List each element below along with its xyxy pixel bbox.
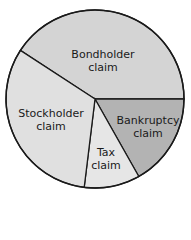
label-bankruptcy: Bankruptcy claim — [113, 114, 183, 140]
label-bankruptcy-line2: claim — [113, 127, 183, 140]
label-stockholder-line2: claim — [18, 120, 84, 133]
label-tax: Tax claim — [88, 146, 124, 172]
label-tax-line1: Tax — [88, 146, 124, 159]
label-bondholder-line1: Bondholder — [68, 48, 138, 61]
label-bondholder: Bondholder claim — [68, 48, 138, 74]
label-tax-line2: claim — [88, 159, 124, 172]
label-stockholder-line1: Stockholder — [18, 107, 84, 120]
label-stockholder: Stockholder claim — [18, 107, 84, 133]
label-bankruptcy-line1: Bankruptcy — [113, 114, 183, 127]
label-bondholder-line2: claim — [68, 61, 138, 74]
